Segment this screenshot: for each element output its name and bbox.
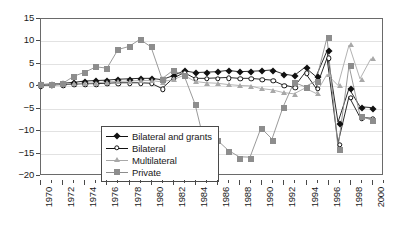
- data-point-marker: [270, 138, 276, 144]
- data-point-marker: [71, 81, 77, 86]
- y-tick-label: −15: [18, 148, 34, 158]
- data-point-marker: [259, 86, 265, 91]
- data-point-marker: [325, 48, 332, 55]
- data-point-marker: [104, 66, 110, 72]
- data-point-marker: [193, 102, 199, 108]
- x-tick-mark: [283, 180, 284, 185]
- data-point-marker: [259, 68, 266, 75]
- x-tick-mark: [383, 180, 384, 183]
- data-point-marker: [260, 77, 265, 82]
- data-point-marker: [248, 156, 254, 162]
- legend-label: Bilateral: [132, 143, 165, 154]
- data-point-marker: [115, 79, 121, 84]
- data-point-marker: [104, 80, 110, 85]
- x-tick-mark: [62, 180, 63, 185]
- line-chart: 151050−5−10−15−20 Bilateral and grantsBi…: [0, 0, 397, 226]
- data-point-marker: [337, 83, 343, 88]
- legend-item[interactable]: Multilateral: [106, 154, 212, 166]
- data-point-marker: [49, 82, 55, 88]
- data-point-marker: [281, 90, 287, 95]
- legend-label: Bilateral and grants: [132, 131, 212, 142]
- data-point-marker: [315, 79, 321, 85]
- x-tick-label: 1974: [88, 187, 98, 207]
- legend-marker-icon: [106, 131, 128, 142]
- x-tick-mark: [40, 180, 41, 185]
- data-point-marker: [348, 42, 354, 47]
- x-tick-mark: [129, 180, 130, 185]
- data-point-marker: [60, 81, 66, 87]
- x-tick-mark: [328, 180, 329, 185]
- data-point-marker: [282, 83, 287, 88]
- data-point-marker: [149, 78, 155, 83]
- y-tick-label: −20: [18, 170, 34, 180]
- x-tick-label: 1992: [287, 187, 297, 207]
- data-point-marker: [71, 74, 77, 80]
- data-point-marker: [292, 92, 298, 97]
- x-tick-label: 1980: [155, 187, 165, 207]
- data-point-marker: [93, 64, 99, 70]
- legend-item[interactable]: Bilateral: [106, 142, 212, 154]
- x-tick-mark: [306, 180, 307, 185]
- data-point-marker: [359, 114, 365, 120]
- y-tick-mark: [36, 175, 40, 176]
- x-tick-mark: [162, 180, 163, 183]
- x-tick-mark: [272, 180, 273, 183]
- data-point-marker: [336, 120, 343, 127]
- data-point-marker: [171, 77, 177, 82]
- data-point-marker: [226, 67, 233, 74]
- data-point-marker: [337, 147, 343, 153]
- data-point-marker: [292, 80, 298, 86]
- x-tick-label: 1998: [354, 187, 364, 207]
- data-point-marker: [237, 76, 242, 81]
- data-point-marker: [326, 35, 332, 41]
- x-tick-label: 1988: [243, 187, 253, 207]
- data-point-marker: [293, 85, 298, 90]
- data-point-marker: [249, 76, 254, 81]
- legend-label: Multilateral: [132, 155, 177, 166]
- data-point-marker: [160, 77, 166, 83]
- data-point-marker: [281, 71, 288, 78]
- x-tick-mark: [151, 180, 152, 185]
- x-tick-mark: [117, 180, 118, 183]
- data-point-marker: [359, 76, 365, 81]
- y-tick-label: −5: [24, 103, 34, 113]
- data-point-marker: [259, 126, 265, 132]
- data-point-marker: [138, 37, 144, 43]
- data-point-marker: [370, 56, 376, 61]
- data-point-marker: [127, 79, 133, 84]
- x-tick-label: 1978: [133, 187, 143, 207]
- legend-item[interactable]: Private: [106, 166, 212, 178]
- data-point-marker: [115, 47, 121, 53]
- legend-item[interactable]: Bilateral and grants: [106, 130, 212, 142]
- y-tick-label: 10: [24, 36, 34, 46]
- data-point-marker: [203, 69, 210, 76]
- x-tick-mark: [217, 180, 218, 185]
- x-tick-label: 2000: [376, 187, 386, 207]
- x-tick-mark: [261, 180, 262, 185]
- legend-point-marker: [114, 145, 119, 150]
- chart-legend: Bilateral and grantsBilateralMultilatera…: [101, 126, 219, 182]
- data-point-marker: [348, 63, 354, 69]
- data-point-marker: [204, 80, 210, 85]
- data-point-marker: [182, 73, 188, 79]
- x-tick-label: 1984: [199, 187, 209, 207]
- x-tick-mark: [317, 180, 318, 183]
- x-tick-mark: [228, 180, 229, 183]
- data-point-marker: [214, 69, 221, 76]
- x-tick-mark: [195, 180, 196, 185]
- data-point-marker: [237, 156, 243, 162]
- plot-area: Bilateral and grantsBilateralMultilatera…: [40, 18, 383, 175]
- data-point-marker: [237, 69, 244, 76]
- legend-point-marker: [114, 157, 120, 162]
- x-tick-mark: [140, 180, 141, 183]
- data-point-marker: [347, 86, 354, 93]
- x-tick-mark: [350, 180, 351, 185]
- data-point-marker: [160, 87, 165, 92]
- legend-marker-icon: [106, 167, 128, 178]
- data-point-marker: [93, 80, 99, 85]
- data-point-marker: [369, 105, 376, 112]
- data-point-marker: [370, 118, 376, 124]
- x-tick-mark: [84, 180, 85, 185]
- data-point-marker: [127, 44, 133, 50]
- data-point-marker: [281, 105, 287, 111]
